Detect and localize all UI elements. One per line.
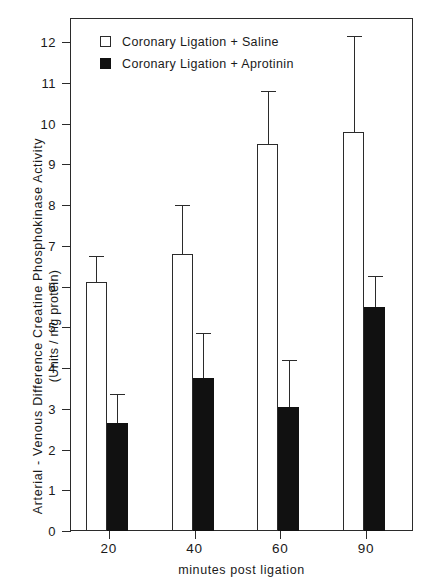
y-axis-tick	[62, 450, 71, 451]
y-axis-tick	[62, 287, 71, 288]
error-bar-stem	[117, 394, 118, 423]
error-bar-stem	[268, 91, 269, 144]
y-axis-tick	[62, 83, 71, 84]
legend-label: Coronary Ligation + Aprotinin	[122, 57, 294, 71]
y-axis-tick	[62, 531, 71, 532]
error-bar-stem	[354, 36, 355, 132]
y-axis-tick	[62, 490, 71, 491]
legend-swatch-open-icon	[100, 36, 111, 47]
error-bar-cap	[368, 276, 383, 277]
bar-90-aprotinin	[364, 307, 385, 531]
y-axis-tick	[62, 246, 71, 247]
x-axis-title: minutes post ligation	[70, 563, 413, 577]
error-bar-cap	[110, 394, 125, 395]
y-axis-tick-label: 0	[16, 524, 56, 539]
y-axis-tick-label: 7	[16, 238, 56, 253]
bar-60-aprotinin	[278, 407, 299, 531]
y-axis-tick-label: 1	[16, 483, 56, 498]
legend-item: Coronary Ligation + Saline	[100, 32, 294, 51]
error-bar-stem	[203, 333, 204, 378]
error-bar-cap	[261, 91, 276, 92]
y-axis-tick	[62, 409, 71, 410]
bar-40-saline	[172, 254, 193, 531]
error-bar-stem	[96, 256, 97, 282]
y-axis-tick-label: 8	[16, 198, 56, 213]
legend-item: Coronary Ligation + Aprotinin	[100, 54, 294, 73]
bar-40-aprotinin	[193, 378, 214, 531]
x-axis-tick-label: 90	[336, 541, 396, 556]
y-axis-tick-label: 11	[16, 75, 56, 90]
y-axis-tick-label: 10	[16, 116, 56, 131]
error-bar-stem	[289, 360, 290, 407]
x-axis-tick	[280, 531, 281, 539]
error-bar-cap	[175, 205, 190, 206]
x-axis-tick	[366, 531, 367, 539]
error-bar-cap	[196, 333, 211, 334]
y-axis-tick	[62, 164, 71, 165]
error-bar-cap	[89, 256, 104, 257]
y-axis-tick	[62, 368, 71, 369]
y-axis-tick	[62, 124, 71, 125]
error-bar-cap	[347, 36, 362, 37]
legend-swatch-filled-icon	[100, 58, 111, 69]
y-axis-tick-label: 2	[16, 442, 56, 457]
chart-figure: Arterial - Venous Difference Creatine Ph…	[0, 0, 428, 587]
y-axis-tick-label: 3	[16, 401, 56, 416]
x-axis-tick-label: 40	[165, 541, 225, 556]
error-bar-stem	[375, 276, 376, 307]
bar-20-saline	[86, 282, 107, 531]
y-axis-tick-label: 4	[16, 361, 56, 376]
y-axis-tick-label: 5	[16, 320, 56, 335]
y-axis-tick-label: 12	[16, 35, 56, 50]
y-axis-tick	[62, 205, 71, 206]
y-axis-tick-label: 9	[16, 157, 56, 172]
bar-60-saline	[257, 144, 278, 531]
bar-90-saline	[343, 132, 364, 531]
y-axis-tick-label: 6	[16, 279, 56, 294]
chart-legend: Coronary Ligation + Saline Coronary Liga…	[100, 32, 294, 76]
x-axis-tick	[195, 531, 196, 539]
error-bar-cap	[282, 360, 297, 361]
x-axis-tick-label: 60	[250, 541, 310, 556]
error-bar-stem	[182, 205, 183, 254]
y-axis-tick	[62, 42, 71, 43]
x-axis-tick-label: 20	[79, 541, 139, 556]
y-axis-tick	[62, 327, 71, 328]
x-axis-tick	[109, 531, 110, 539]
bar-20-aprotinin	[107, 423, 128, 531]
legend-label: Coronary Ligation + Saline	[122, 35, 279, 49]
